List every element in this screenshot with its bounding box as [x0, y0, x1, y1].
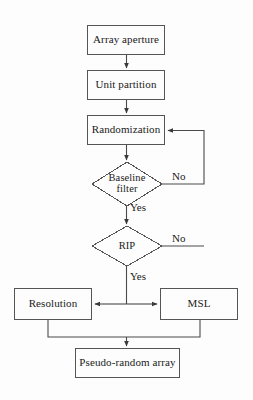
- flowchart-canvas: [0, 0, 253, 400]
- flowchart-diagram: Array aperture Unit partition Randomizat…: [0, 0, 253, 400]
- node-pseudo-random-array-shape: [76, 349, 180, 378]
- edge-baseline-no-to-randomization: [162, 131, 204, 185]
- node-resolution-shape: [15, 289, 92, 320]
- node-array-aperture-shape: [88, 26, 165, 55]
- node-unit-partition-shape: [88, 71, 165, 100]
- node-msl-shape: [161, 289, 238, 320]
- node-randomization-shape: [88, 116, 165, 145]
- node-rip-shape: [92, 226, 162, 266]
- edge-resolution-to-pseudo-random: [48, 320, 127, 337]
- edge-msl-to-pseudo-random: [127, 320, 200, 337]
- node-baseline-filter-shape: [92, 162, 162, 206]
